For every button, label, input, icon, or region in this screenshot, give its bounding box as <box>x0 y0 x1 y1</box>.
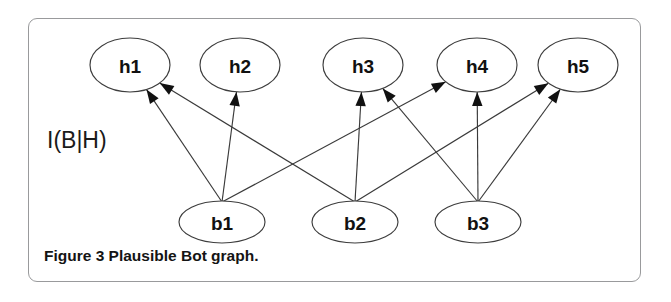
arrowhead-b1-to-h4 <box>431 82 446 93</box>
arrowhead-b3-to-h5 <box>548 89 560 103</box>
graph-edge-b2-to-h1 <box>160 83 355 202</box>
graph-nodes-layer: b1b2b3h1h2h3h4h5 <box>90 38 618 243</box>
graph-edge-b3-to-h3 <box>383 88 478 202</box>
arrowhead-b3-to-h4 <box>472 92 482 106</box>
node-label-b2: b2 <box>344 213 366 234</box>
graph-node-h5[interactable]: h5 <box>538 38 618 92</box>
arrowhead-b3-to-h3 <box>383 88 396 102</box>
arrowhead-b2-to-h3 <box>355 92 365 106</box>
graph-node-h1[interactable]: h1 <box>90 38 170 92</box>
graph-node-h4[interactable]: h4 <box>437 38 517 92</box>
node-label-b1: b1 <box>211 213 234 234</box>
graph-edge-b2-to-h5 <box>355 83 548 202</box>
node-label-b3: b3 <box>467 213 489 234</box>
arrowhead-b1-to-h2 <box>229 92 239 107</box>
graph-edge-b1-to-h2 <box>222 92 236 202</box>
graph-edge-b3-to-h5 <box>478 89 560 202</box>
arrowhead-b2-to-h5 <box>534 83 549 95</box>
graph-node-b1[interactable]: b1 <box>179 201 265 243</box>
graph-node-b3[interactable]: b3 <box>435 201 521 243</box>
graph-node-b2[interactable]: b2 <box>312 201 398 243</box>
graph-edges-layer <box>147 82 561 202</box>
figure-caption-number: Figure 3 <box>44 247 104 264</box>
graph-edge-b3-to-h4 <box>477 92 478 202</box>
node-label-h3: h3 <box>352 56 374 77</box>
graph-edge-b1-to-h1 <box>147 90 222 202</box>
graph-node-h3[interactable]: h3 <box>323 38 403 92</box>
arrowhead-b2-to-h1 <box>160 83 175 95</box>
node-label-h5: h5 <box>567 56 590 77</box>
figure-caption: Figure 3 Plausible Bot graph. <box>44 247 258 265</box>
arrowhead-b1-to-h1 <box>147 90 159 105</box>
node-label-h4: h4 <box>466 56 489 77</box>
node-label-h1: h1 <box>119 56 142 77</box>
figure-caption-title: Plausible Bot graph. <box>104 247 258 264</box>
graph-node-h2[interactable]: h2 <box>200 38 280 92</box>
graph-edge-b2-to-h3 <box>355 92 361 202</box>
node-label-h2: h2 <box>229 56 251 77</box>
set-label-i-b-given-h: I(B|H) <box>47 127 107 154</box>
